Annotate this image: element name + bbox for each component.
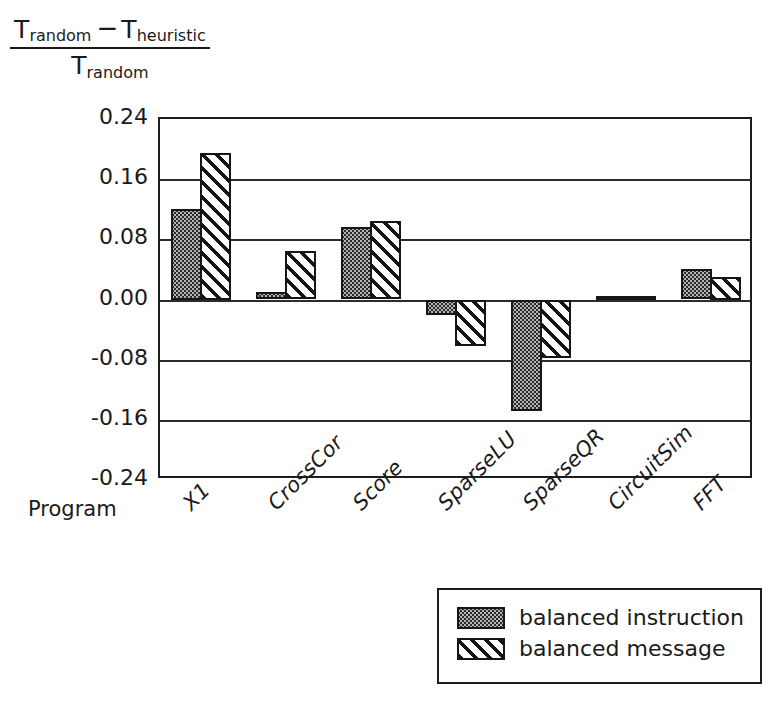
y-tick-label: 0.24 xyxy=(84,106,148,128)
bar-instruction xyxy=(171,209,202,299)
y-axis-fraction: Trandom−Theuristic Trandom xyxy=(10,14,210,81)
bars-layer xyxy=(160,119,750,476)
t-random-subscript: random xyxy=(29,26,91,45)
bar-message xyxy=(540,300,571,359)
y-axis-fraction-denominator: Trandom xyxy=(10,49,210,81)
legend-item-balanced-message: balanced message xyxy=(457,635,725,662)
bar-instruction xyxy=(681,269,712,299)
bar-message xyxy=(370,221,401,299)
y-tick-label: 0.00 xyxy=(84,287,148,309)
t-random-symbol: T xyxy=(14,15,29,44)
y-axis-fraction-numerator: Trandom−Theuristic xyxy=(10,14,210,49)
bar-instruction xyxy=(511,300,542,411)
y-tick-label: 0.16 xyxy=(84,166,148,188)
bar-instruction xyxy=(256,292,287,300)
legend-item-balanced-instruction: balanced instruction xyxy=(457,604,744,631)
t-random-denominator-symbol: T xyxy=(71,51,86,80)
x-axis-title: Program xyxy=(28,497,117,521)
bar-message xyxy=(285,251,316,300)
plot-area xyxy=(158,117,752,478)
minus-operator: − xyxy=(91,13,121,43)
t-heuristic-symbol: T xyxy=(121,15,136,44)
y-axis-label: Trandom−Theuristic Trandom xyxy=(10,14,280,81)
bar-instruction xyxy=(341,227,372,299)
bar-instruction xyxy=(596,296,627,300)
y-tick-label: 0.08 xyxy=(84,226,148,248)
legend-swatch-message-icon xyxy=(457,638,505,660)
bar-instruction xyxy=(426,300,457,315)
y-tick-label: -0.16 xyxy=(84,407,148,429)
legend: balanced instruction balanced message xyxy=(437,588,762,684)
bar-message xyxy=(200,153,231,300)
bar-message xyxy=(455,300,486,347)
bar-message xyxy=(710,277,741,300)
y-tick-label: -0.08 xyxy=(84,347,148,369)
t-random-denominator-subscript: random xyxy=(87,62,149,81)
legend-label-message: balanced message xyxy=(519,638,725,660)
t-heuristic-subscript: heuristic xyxy=(137,26,206,45)
bar-message xyxy=(625,296,656,300)
legend-swatch-instruction-icon xyxy=(457,607,505,629)
x-tick-label: X1 xyxy=(178,478,215,515)
legend-label-instruction: balanced instruction xyxy=(519,607,744,629)
y-axis-ticks: 0.240.160.080.00-0.08-0.16-0.24 xyxy=(78,117,148,478)
y-tick-label: -0.24 xyxy=(84,467,148,489)
